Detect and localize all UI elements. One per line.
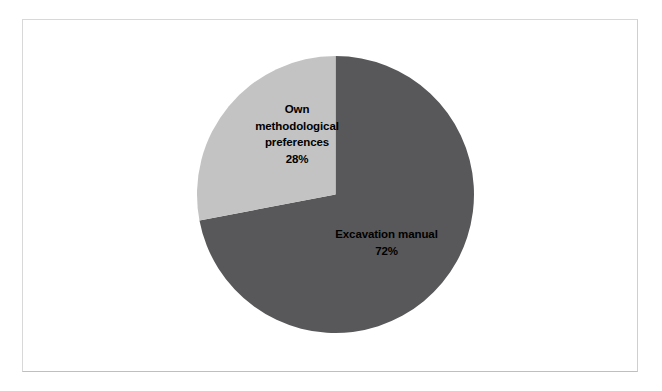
chart-figure-frame: Own methodological preferences 28% Excav… — [22, 19, 638, 372]
pie-chart — [197, 56, 474, 333]
pie-chart-svg — [197, 56, 474, 333]
pie-chart-plot-area: Own methodological preferences 28% Excav… — [23, 20, 639, 373]
pie-slice-own-methodological-preferences[interactable] — [197, 56, 336, 220]
